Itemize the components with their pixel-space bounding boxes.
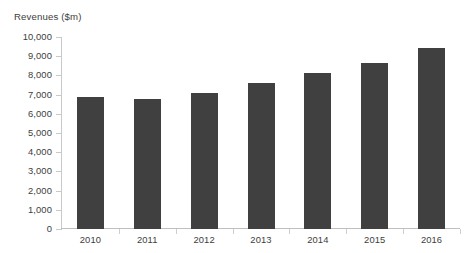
revenues-bar-chart: Revenues ($m) 01,0002,0003,0004,0005,000…	[0, 0, 469, 253]
y-tick-label: 0	[8, 223, 52, 234]
bar	[134, 99, 161, 229]
x-tick-label: 2015	[346, 234, 403, 245]
x-tick-label: 2011	[119, 234, 176, 245]
y-tick-label: 7,000	[8, 89, 52, 100]
y-tick-mark	[56, 229, 62, 230]
y-tick-label: 9,000	[8, 50, 52, 61]
bar	[304, 73, 331, 229]
x-tick-label: 2010	[62, 234, 119, 245]
y-tick-label: 2,000	[8, 185, 52, 196]
bar	[361, 63, 388, 229]
clipped-top-text	[0, 0, 469, 3]
y-tick-label: 10,000	[8, 31, 52, 42]
y-tick-label: 1,000	[8, 204, 52, 215]
y-tick-label: 3,000	[8, 165, 52, 176]
y-tick-label: 4,000	[8, 146, 52, 157]
bar	[248, 83, 275, 229]
x-tick-label: 2016	[403, 234, 460, 245]
x-tick-label: 2012	[176, 234, 233, 245]
y-tick-label: 8,000	[8, 69, 52, 80]
bar	[418, 48, 445, 229]
x-tick-label: 2014	[289, 234, 346, 245]
y-tick-label: 5,000	[8, 127, 52, 138]
plot-area	[62, 37, 460, 229]
x-tick-mark	[460, 229, 461, 234]
x-tick-label: 2013	[233, 234, 290, 245]
y-axis-title: Revenues ($m)	[14, 11, 82, 22]
y-tick-label: 6,000	[8, 108, 52, 119]
bar	[191, 93, 218, 229]
bar	[77, 97, 104, 229]
